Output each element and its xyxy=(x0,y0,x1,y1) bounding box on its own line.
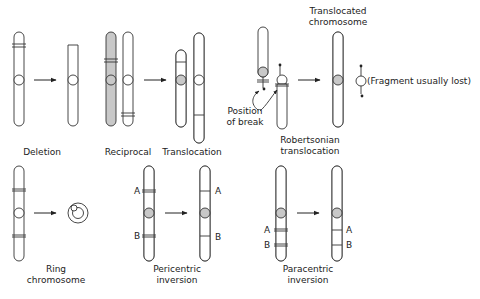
marker-a-original: A xyxy=(134,186,141,196)
paracentric-inversion-panel: A B A B Paracentric inversion xyxy=(264,166,353,285)
deletion-panel: Deletion xyxy=(12,32,78,157)
chromosome-original xyxy=(274,166,288,261)
acrocentric-chromosome-shaded xyxy=(257,27,269,90)
pericentric-label-2: inversion xyxy=(156,275,197,285)
reciprocal-label: Reciprocal xyxy=(105,147,152,157)
ring-chromosome xyxy=(68,203,88,223)
chromosome-original xyxy=(142,166,156,261)
ring-label-1: Ring xyxy=(46,264,66,274)
marker-b-original: B xyxy=(264,240,270,250)
deletion-label: Deletion xyxy=(23,147,61,157)
position-of-break-label-1: Position xyxy=(227,106,262,116)
chromosome-inverted xyxy=(332,166,342,261)
chromosome-inverted xyxy=(200,166,210,261)
chromosome-result-short xyxy=(176,50,186,127)
robertsonian-label-1: Robertsonian xyxy=(280,135,339,145)
translocated-chromosome-label-1: Translocated xyxy=(308,6,366,16)
ring-label-2: chromosome xyxy=(27,275,86,285)
fragment xyxy=(356,65,366,98)
translocated-chromosome xyxy=(333,32,343,127)
marker-a-original: A xyxy=(264,225,271,235)
chromosome-original xyxy=(12,32,26,126)
robertsonian-translocation-panel: Position of break Robertsonian transloca… xyxy=(226,6,470,156)
marker-a-inverted: A xyxy=(346,225,353,235)
reciprocal-translocation-panel: Reciprocal Translocation xyxy=(104,32,222,157)
fragment-label: (Fragment usually lost) xyxy=(367,76,471,86)
paracentric-label-2: inversion xyxy=(287,275,328,285)
chromosome-unshaded xyxy=(121,32,135,126)
pericentric-inversion-panel: A B A B Pericentric inversion xyxy=(134,166,222,285)
chromosome-deleted xyxy=(68,45,78,126)
robertsonian-label-2: translocation xyxy=(281,146,340,156)
chromosome-original xyxy=(12,166,26,261)
chromosome-rearrangement-diagram: Deletion Recipr xyxy=(0,0,480,299)
marker-b-inverted: B xyxy=(215,232,221,242)
translocated-chromosome-label-2: chromosome xyxy=(309,17,368,27)
paracentric-label-1: Paracentric xyxy=(283,264,334,274)
marker-a-inverted: A xyxy=(215,186,222,196)
chromosome-shaded xyxy=(104,32,118,126)
position-of-break-label-2: of break xyxy=(226,117,264,127)
ring-chromosome-panel: Ring chromosome xyxy=(12,166,88,285)
pericentric-label-1: Pericentric xyxy=(153,264,201,274)
marker-b-inverted: B xyxy=(346,240,352,250)
chromosome-result-long xyxy=(194,33,204,143)
acrocentric-chromosome-unshaded xyxy=(275,64,289,129)
marker-b-original: B xyxy=(134,231,140,241)
translocation-label: Translocation xyxy=(161,147,222,157)
